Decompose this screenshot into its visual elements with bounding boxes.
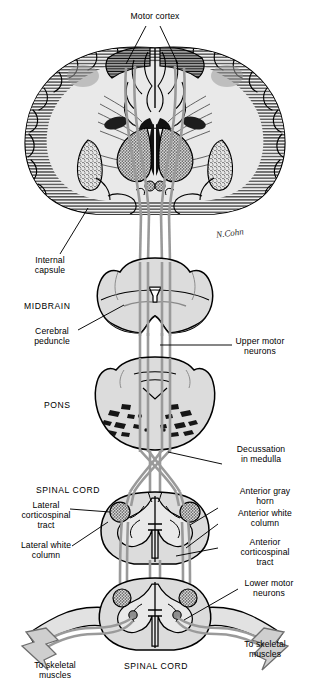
- cerebrum-coronal-section: [25, 43, 285, 218]
- pons-section: [95, 357, 215, 458]
- label-motor-cortex: Motor cortex: [96, 11, 214, 21]
- medulla-decussation: [130, 450, 180, 494]
- corticospinal-pathway-figure: Motor cortex Internal capsule MIDBRAIN C…: [0, 0, 311, 684]
- label-to-skeletal-muscles-right: To skeletal muscles: [224, 639, 306, 659]
- tract-brain-to-midbrain: [140, 214, 170, 262]
- label-spinal-cord-upper: SPINAL CORD: [36, 485, 132, 495]
- label-upper-motor-neurons: Upper motor neurons: [212, 336, 308, 356]
- midbrain-section: [92, 258, 218, 340]
- label-cerebral-peduncle: Cerebral peduncle: [6, 326, 98, 346]
- label-internal-capsule: Internal capsule: [4, 255, 96, 275]
- label-spinal-cord-lower: SPINAL CORD: [110, 661, 202, 671]
- label-anterior-white-column: Anterior white column: [220, 508, 310, 528]
- label-pons: PONS: [44, 400, 104, 410]
- spinal-cord-upper-section: [100, 492, 210, 572]
- label-decussation-in-medulla: Decussation in medulla: [212, 444, 310, 464]
- label-anterior-corticospinal-tract: Anterior corticospinal tract: [220, 537, 310, 568]
- label-anterior-gray-horn: Anterior gray horn: [220, 486, 310, 506]
- label-lower-motor-neurons: Lower motor neurons: [228, 578, 310, 598]
- label-lateral-white-column: Lateral white column: [0, 540, 92, 560]
- tract-midbrain-to-pons: [140, 333, 170, 360]
- label-midbrain: MIDBRAIN: [24, 301, 104, 311]
- label-lateral-corticospinal-tract: Lateral corticospinal tract: [2, 500, 90, 531]
- label-to-skeletal-muscles-left: To skeletal muscles: [14, 660, 96, 680]
